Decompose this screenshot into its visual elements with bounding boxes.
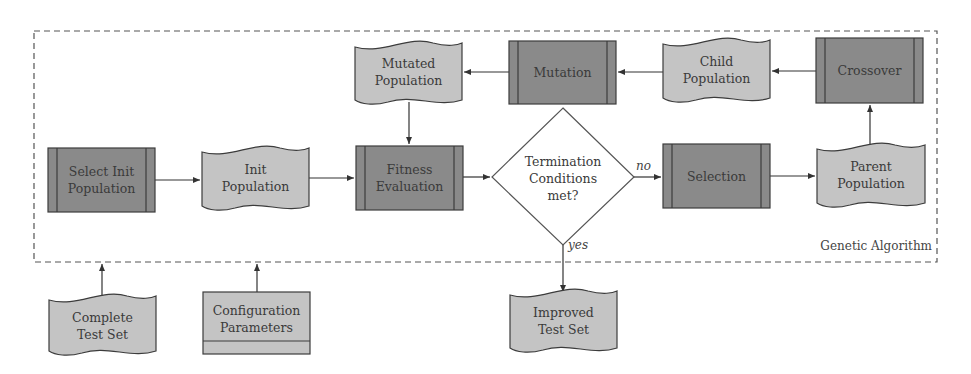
node-complete-test-set: Complete Test Set — [49, 294, 156, 355]
genetic-algorithm-group — [34, 31, 937, 262]
node-parent-population: Parent Population — [817, 143, 925, 207]
node-select-init-population: Select Init Population — [48, 148, 155, 212]
svg-text:Configuration: Configuration — [213, 303, 301, 318]
node-improved-test-set: Improved Test Set — [510, 289, 617, 352]
svg-text:Termination: Termination — [525, 154, 602, 169]
node-crossover: Crossover — [816, 38, 923, 103]
svg-text:Conditions: Conditions — [529, 171, 597, 186]
node-child-population: Child Population — [663, 38, 770, 102]
svg-text:Selection: Selection — [687, 169, 746, 184]
svg-text:met?: met? — [548, 188, 579, 203]
svg-text:Select Init: Select Init — [69, 164, 134, 179]
genetic-algorithm-flowchart: Genetic Algorithm no yes Select Init Pop… — [0, 0, 971, 374]
svg-text:Population: Population — [837, 176, 905, 191]
node-fitness-evaluation: Fitness Evaluation — [356, 146, 463, 210]
node-mutated-population: Mutated Population — [355, 41, 462, 104]
svg-text:Mutated: Mutated — [382, 56, 436, 71]
svg-text:Test Set: Test Set — [538, 322, 589, 337]
svg-text:Evaluation: Evaluation — [376, 179, 444, 194]
svg-text:Crossover: Crossover — [838, 63, 902, 78]
svg-text:Mutation: Mutation — [534, 65, 592, 80]
node-configuration-parameters: Configuration Parameters — [203, 292, 310, 354]
svg-text:Population: Population — [375, 73, 443, 88]
svg-text:Population: Population — [222, 179, 290, 194]
edge-label-yes: yes — [567, 238, 588, 252]
svg-text:Test Set: Test Set — [77, 327, 128, 342]
svg-text:Parameters: Parameters — [220, 320, 293, 335]
svg-text:Improved: Improved — [533, 305, 594, 320]
node-init-population: Init Population — [202, 146, 309, 210]
edge-label-no: no — [636, 159, 651, 173]
node-termination-decision: Termination Conditions met? — [492, 108, 634, 245]
svg-text:Population: Population — [683, 71, 751, 86]
svg-text:Complete: Complete — [72, 310, 133, 325]
node-mutation: Mutation — [509, 41, 616, 104]
svg-text:Population: Population — [68, 181, 136, 196]
svg-text:Child: Child — [700, 54, 734, 69]
group-label: Genetic Algorithm — [820, 239, 932, 253]
svg-text:Fitness: Fitness — [387, 162, 433, 177]
svg-text:Init: Init — [244, 162, 266, 177]
node-selection: Selection — [663, 144, 770, 208]
svg-text:Parent: Parent — [850, 159, 892, 174]
